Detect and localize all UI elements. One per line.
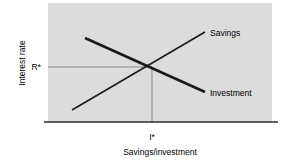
savings-curve-label: Savings — [210, 29, 240, 38]
supply-demand-chart: Interest rate R* I* Savings/investment S… — [0, 0, 283, 160]
savings-curve — [72, 32, 205, 110]
y-axis-title: Interest rate — [18, 40, 27, 85]
chart-canvas — [0, 0, 283, 160]
investment-curve — [85, 38, 205, 92]
x-axis-title: Savings/investment — [123, 148, 197, 157]
x-tick-label-i-star: I* — [149, 133, 155, 142]
y-tick-label-r-star: R* — [32, 63, 44, 72]
investment-curve-label: Investment — [210, 89, 252, 98]
